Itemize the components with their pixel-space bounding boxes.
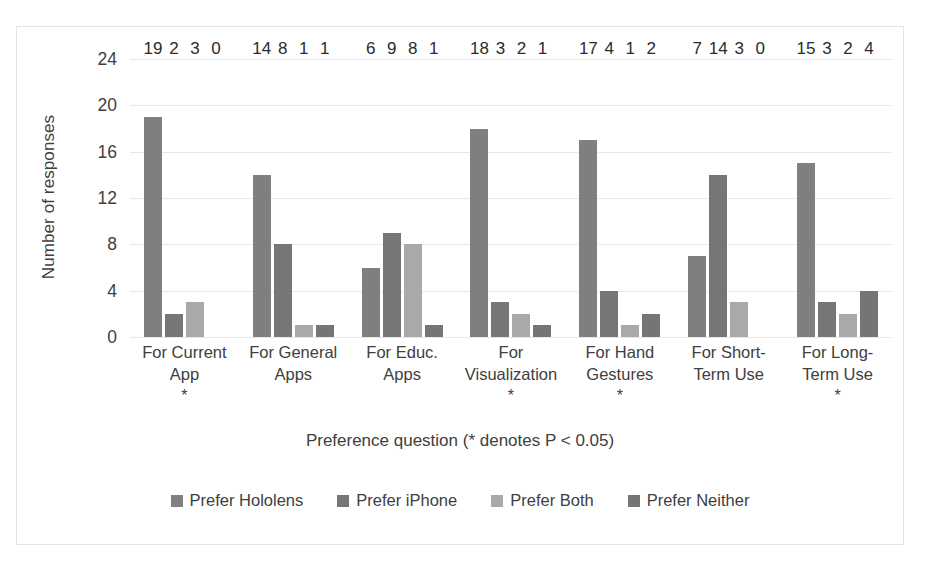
bar-value-label: 1 — [320, 40, 329, 58]
bar[interactable]: 18 — [470, 129, 488, 338]
bar-slot[interactable]: 14 — [253, 59, 271, 337]
plot-area: 04812162024 1923014811698118321174127143… — [130, 59, 892, 337]
significance-marker: * — [565, 386, 674, 405]
bar[interactable]: 17 — [579, 140, 597, 337]
bar-value-label: 2 — [647, 40, 656, 58]
bar[interactable]: 2 — [512, 314, 530, 337]
bar-value-label: 4 — [605, 40, 614, 58]
legend-swatch-icon — [628, 495, 640, 507]
bar-slot[interactable]: 3 — [186, 59, 204, 337]
bar-slot[interactable]: 0 — [207, 59, 225, 337]
x-axis-title: Preference question (* denotes P < 0.05) — [17, 431, 903, 451]
bar[interactable]: 15 — [797, 163, 815, 337]
bar-slot[interactable]: 1 — [295, 59, 313, 337]
bar-slot[interactable]: 2 — [165, 59, 183, 337]
bar[interactable]: 14 — [253, 175, 271, 337]
bar-value-label: 1 — [429, 40, 438, 58]
bar-value-label: 8 — [278, 40, 287, 58]
bar-value-label: 9 — [387, 40, 396, 58]
bar-value-label: 1 — [299, 40, 308, 58]
bar[interactable]: 1 — [621, 325, 639, 337]
bar-slot[interactable]: 1 — [533, 59, 551, 337]
bar-slot[interactable]: 17 — [579, 59, 597, 337]
legend-swatch-icon — [171, 495, 183, 507]
bar-slot[interactable]: 18 — [470, 59, 488, 337]
bar[interactable]: 3 — [186, 302, 204, 337]
bar[interactable]: 19 — [144, 117, 162, 337]
bar[interactable]: 1 — [533, 325, 551, 337]
bar-slot[interactable]: 8 — [404, 59, 422, 337]
category-label-line: For Hand — [565, 342, 674, 364]
bar-value-label: 6 — [366, 40, 375, 58]
bar-slot[interactable]: 1 — [316, 59, 334, 337]
bar[interactable]: 3 — [818, 302, 836, 337]
legend-label: Prefer iPhone — [356, 491, 457, 510]
bar[interactable]: 4 — [860, 291, 878, 337]
bar-slot[interactable]: 8 — [274, 59, 292, 337]
bar-group: 18321 — [457, 59, 566, 337]
bar-slot[interactable]: 2 — [512, 59, 530, 337]
bar-value-label: 3 — [734, 40, 743, 58]
bar-slot[interactable]: 0 — [751, 59, 769, 337]
bar-slot[interactable]: 2 — [642, 59, 660, 337]
bar[interactable]: 7 — [688, 256, 706, 337]
significance-marker: * — [783, 386, 892, 405]
bar[interactable]: 2 — [839, 314, 857, 337]
y-axis-tick-label: 4 — [107, 280, 117, 301]
legend-item[interactable]: Prefer Neither — [628, 491, 750, 510]
bar-value-label: 0 — [211, 40, 220, 58]
bar[interactable]: 8 — [274, 244, 292, 337]
significance-marker: * — [130, 386, 239, 405]
x-axis-category-label: For HandGestures* — [565, 342, 674, 405]
bar-group: 17412 — [565, 59, 674, 337]
bar-slot[interactable]: 19 — [144, 59, 162, 337]
bar-slot[interactable]: 4 — [600, 59, 618, 337]
category-label-line: Apps — [239, 364, 348, 386]
bar-value-label: 2 — [517, 40, 526, 58]
bar[interactable]: 9 — [383, 233, 401, 337]
bar-slot[interactable]: 3 — [730, 59, 748, 337]
bar-group: 6981 — [348, 59, 457, 337]
legend-item[interactable]: Prefer iPhone — [337, 491, 457, 510]
bar-series-layer: 1923014811698118321174127143015324 — [130, 59, 892, 337]
legend-swatch-icon — [491, 495, 503, 507]
bar-slot[interactable]: 1 — [621, 59, 639, 337]
bar-slot[interactable]: 3 — [818, 59, 836, 337]
bar-slot[interactable]: 9 — [383, 59, 401, 337]
bar[interactable]: 1 — [425, 325, 443, 337]
bar[interactable]: 4 — [600, 291, 618, 337]
x-axis-category-label: For Short-Term Use — [674, 342, 783, 386]
category-label-line: For General — [239, 342, 348, 364]
bar-slot[interactable]: 15 — [797, 59, 815, 337]
bar[interactable]: 8 — [404, 244, 422, 337]
bar-value-label: 15 — [797, 40, 816, 58]
bar-value-label: 2 — [169, 40, 178, 58]
bar-slot[interactable]: 1 — [425, 59, 443, 337]
legend-label: Prefer Hololens — [190, 491, 304, 510]
bar-slot[interactable]: 2 — [839, 59, 857, 337]
y-axis-tick-label: 16 — [98, 141, 117, 162]
bar-slot[interactable]: 7 — [688, 59, 706, 337]
bar[interactable]: 2 — [165, 314, 183, 337]
x-axis-category-label: ForVisualization* — [457, 342, 566, 405]
bar[interactable]: 1 — [316, 325, 334, 337]
bar-value-label: 1 — [538, 40, 547, 58]
y-axis-tick-label: 24 — [98, 49, 117, 70]
bar[interactable]: 3 — [730, 302, 748, 337]
bar-chart-figure: Number of responses 04812162024 19230148… — [16, 26, 904, 545]
bar-slot[interactable]: 3 — [491, 59, 509, 337]
bar[interactable]: 1 — [295, 325, 313, 337]
bar[interactable]: 2 — [642, 314, 660, 337]
bar[interactable]: 6 — [362, 268, 380, 338]
bar[interactable]: 3 — [491, 302, 509, 337]
legend-item[interactable]: Prefer Hololens — [171, 491, 304, 510]
bar-slot[interactable]: 4 — [860, 59, 878, 337]
x-axis-category-label: For CurrentApp* — [130, 342, 239, 405]
bar-slot[interactable]: 6 — [362, 59, 380, 337]
x-axis-category-label: For Educ.Apps — [348, 342, 457, 386]
legend-item[interactable]: Prefer Both — [491, 491, 593, 510]
category-label-line: Term Use — [674, 364, 783, 386]
bar[interactable]: 14 — [709, 175, 727, 337]
bar-value-label: 3 — [822, 40, 831, 58]
bar-slot[interactable]: 14 — [709, 59, 727, 337]
